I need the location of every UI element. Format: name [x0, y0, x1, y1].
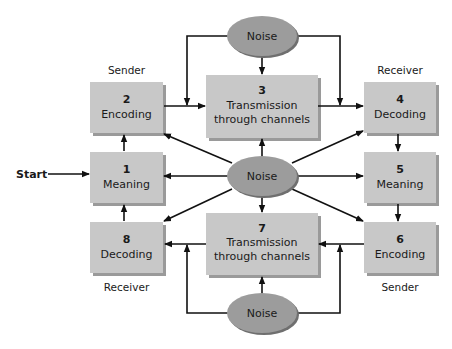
noise-center-label: Noise: [247, 170, 278, 183]
box-2-label: Encoding: [101, 108, 152, 121]
box-8-label: Decoding: [100, 248, 152, 261]
box-2-number: 2: [123, 93, 131, 106]
box-7-label-line1: Transmission: [225, 236, 297, 249]
box-7-transmission: 7 Transmission through channels: [206, 213, 321, 278]
box-4-label: Decoding: [374, 108, 426, 121]
box-3-label-line2: through channels: [214, 113, 310, 126]
box-8-number: 8: [123, 233, 131, 246]
start-label: Start: [16, 168, 47, 181]
box-3-number: 3: [258, 84, 266, 97]
box-1-meaning: 1 Meaning: [90, 152, 166, 206]
noise-top: Noise: [227, 16, 299, 58]
noise-top-label: Noise: [247, 30, 278, 43]
role-label-sender-top-left: Sender: [108, 64, 146, 76]
role-label-sender-bottom-right: Sender: [381, 281, 419, 293]
box-4-number: 4: [396, 93, 404, 106]
role-label-receiver-top-right: Receiver: [377, 64, 423, 76]
noise-center: Noise: [227, 156, 299, 198]
box-7-label-line2: through channels: [214, 250, 310, 263]
box-6-number: 6: [396, 233, 404, 246]
box-4-decoding: 4 Decoding: [364, 82, 439, 136]
box-3-label-line1: Transmission: [225, 99, 297, 112]
box-5-label: Meaning: [377, 178, 424, 191]
role-label-receiver-bottom-left: Receiver: [104, 281, 150, 293]
box-1-label: Meaning: [103, 178, 150, 191]
box-2-encoding: 2 Encoding: [90, 82, 166, 136]
box-3-transmission: 3 Transmission through channels: [206, 75, 321, 141]
noise-bottom: Noise: [227, 293, 299, 335]
box-6-label: Encoding: [375, 248, 426, 261]
box-5-meaning: 5 Meaning: [364, 152, 439, 206]
box-7-number: 7: [258, 222, 266, 235]
noise-bottom-label: Noise: [247, 307, 278, 320]
box-6-encoding: 6 Encoding: [364, 222, 439, 276]
communication-diagram: 2 Encoding 1 Meaning 8 Decoding 3 Transm…: [0, 0, 452, 349]
box-8-decoding: 8 Decoding: [90, 222, 166, 276]
box-1-number: 1: [123, 163, 131, 176]
box-5-number: 5: [396, 163, 404, 176]
